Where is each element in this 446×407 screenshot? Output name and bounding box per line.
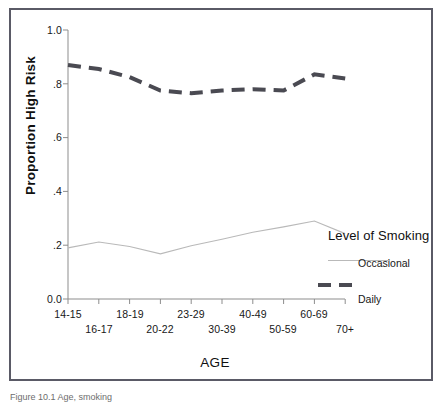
- y-tick-label: .2: [28, 239, 62, 251]
- x-axis-title: AGE: [140, 355, 290, 370]
- x-tick-label: 30-39: [200, 323, 244, 335]
- x-tick-label: 16-17: [77, 323, 121, 335]
- thick-dashed-swatch-icon: [318, 283, 358, 287]
- x-tick-label: 50-59: [261, 323, 305, 335]
- y-tick-label: 0.0: [28, 293, 62, 305]
- figure-caption: Figure 10.1 Age, smoking: [10, 392, 112, 406]
- legend-label: Daily: [358, 293, 381, 305]
- x-tick-label: 23-29: [169, 308, 213, 320]
- x-tick-label: 70+: [323, 323, 367, 335]
- x-tick-label: 18-19: [108, 308, 152, 320]
- legend-label: Occasional: [358, 257, 410, 269]
- axes: [63, 30, 345, 304]
- legend-entry-occasional[interactable]: Occasional: [328, 251, 440, 273]
- series-line-daily: [68, 65, 345, 93]
- chart-plot-area: 1.0 .8 .6 .4 .2 0.0 14-15 16-17 18-19 20…: [0, 0, 446, 407]
- x-tick-label: 40-49: [231, 308, 275, 320]
- series-line-occasional: [68, 221, 345, 254]
- x-tick-label: 60-69: [292, 308, 336, 320]
- legend-entry-daily[interactable]: Daily: [328, 277, 440, 299]
- x-tick-label: 20-22: [138, 323, 182, 335]
- chart-legend: Level of Smoking Occasional Daily: [328, 228, 440, 299]
- x-tick-label: 14-15: [46, 308, 90, 320]
- chart-canvas: [0, 0, 446, 407]
- legend-title: Level of Smoking: [328, 228, 440, 243]
- y-tick-label: 1.0: [28, 24, 62, 36]
- y-axis-title: Proportion High Risk: [23, 36, 38, 216]
